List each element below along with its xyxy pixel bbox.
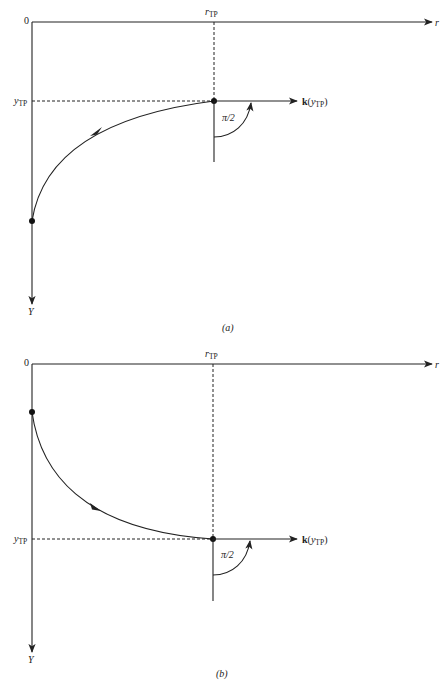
ray-path-curve xyxy=(32,101,214,221)
direction-arrow-icon xyxy=(90,127,102,136)
k-vector-label: k(yTP) xyxy=(302,96,327,109)
diagram-canvas: 0 r Y rTP yTP k(yTP) π/2 (a) xyxy=(0,0,446,693)
r-axis-label: r xyxy=(435,359,439,370)
panel-b: 0 r Y rTP yTP k(yTP) π/2 (b) xyxy=(13,348,439,680)
panel-caption: (b) xyxy=(216,668,228,680)
y-tp-label: yTP xyxy=(13,95,27,108)
r-axis-label: r xyxy=(435,17,439,28)
origin-label: 0 xyxy=(24,357,29,368)
y-tp-label: yTP xyxy=(13,533,27,546)
r-tp-label: rTP xyxy=(205,6,218,19)
r-tp-label: rTP xyxy=(205,348,218,361)
ray-path-curve xyxy=(32,412,213,539)
angle-label: π/2 xyxy=(222,112,235,123)
panel-a: 0 r Y rTP yTP k(yTP) π/2 (a) xyxy=(13,6,439,334)
y-axis-label: Y xyxy=(28,654,35,665)
y-axis-label: Y xyxy=(28,306,35,317)
start-point xyxy=(29,218,35,224)
origin-label: 0 xyxy=(24,15,29,26)
start-point xyxy=(29,409,35,415)
k-vector-label: k(yTP) xyxy=(302,534,327,547)
angle-label: π/2 xyxy=(221,549,234,560)
panel-caption: (a) xyxy=(222,322,234,334)
